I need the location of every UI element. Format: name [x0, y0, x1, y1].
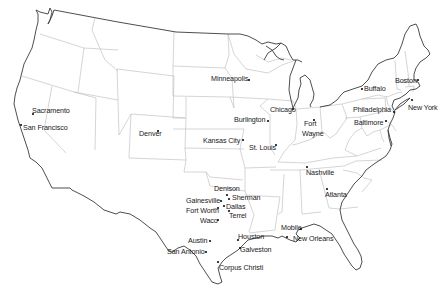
city-label-nashville: Nashville [306, 169, 334, 176]
city-marker-denison [226, 194, 228, 196]
city-label-san-francisco: San Francisco [23, 124, 68, 131]
city-marker-kansas-city [242, 139, 244, 141]
coastline [14, 8, 430, 284]
city-label-st-louis: St. Louis [249, 144, 276, 151]
city-marker-gainesville [220, 200, 222, 202]
city-label-denver: Denver [139, 130, 162, 137]
city-marker-san-antonio [205, 251, 207, 253]
city-label-sacramento: Sacramento [32, 107, 70, 114]
city-marker-san-francisco [20, 124, 22, 126]
city-label-fort-worth: Fort Worth [186, 207, 219, 214]
city-marker-baltimore [385, 120, 387, 122]
city-marker-burlington [267, 120, 269, 122]
city-marker-austin [209, 240, 211, 242]
city-label-minneapolis: Minneapolis [211, 75, 248, 82]
city-marker-buffalo [361, 88, 363, 90]
city-label-wayne: Wayne [302, 130, 324, 137]
city-marker-new-york [411, 99, 413, 101]
city-label-fort: Fort [304, 120, 316, 127]
city-label-denison: Denison [214, 185, 240, 192]
city-marker-new-orleans [286, 236, 288, 238]
city-label-galveston: Galveston [240, 246, 271, 253]
city-label-san-antonio: San Antonio [167, 248, 205, 255]
city-marker-sherman [228, 198, 230, 200]
city-label-austin: Austin [188, 237, 207, 244]
city-label-boston: Boston [395, 77, 417, 84]
city-marker-dallas [223, 205, 225, 207]
city-label-atlanta: Atlanta [325, 191, 347, 198]
city-label-new-york: New York [408, 104, 438, 111]
city-label-buffalo: Buffalo [364, 85, 386, 92]
city-label-mobile: Mobile [281, 224, 302, 231]
city-label-baltimore: Baltimore [354, 119, 383, 126]
city-marker-philadelphia [393, 111, 395, 113]
city-label-burlington: Burlington [234, 116, 265, 123]
city-label-houston: Houston [238, 233, 264, 240]
city-label-corpus-christi: Corpus Christi [219, 264, 263, 271]
city-marker-boston [417, 79, 419, 81]
city-label-gainesville: Gainesville [186, 197, 220, 204]
city-label-chicago: Chicago [270, 106, 296, 113]
city-label-waco: Waco [200, 217, 218, 224]
city-label-new-orleans: New Orleans [293, 235, 333, 242]
city-label-dallas: Dallas [226, 203, 245, 210]
city-label-kansas-city: Kansas City [203, 137, 240, 144]
city-label-terrel: Terrel [229, 212, 246, 219]
city-label-sherman: Sherman [232, 194, 260, 201]
city-label-philadelphia: Philadelphia [353, 106, 391, 113]
